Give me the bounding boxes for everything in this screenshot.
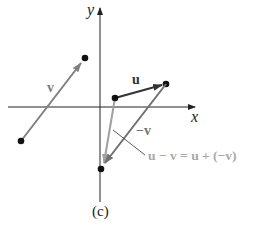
result-head-dot <box>98 166 105 173</box>
vector-v-label: v <box>47 81 54 95</box>
x-axis-label: x <box>191 109 198 125</box>
vector-diagram <box>0 0 258 232</box>
vector-u-tail-dot <box>112 95 119 102</box>
y-axis-label: y <box>87 2 94 18</box>
vector-v-head-dot <box>82 55 89 62</box>
vector-u-label: u <box>132 73 140 87</box>
vector-v <box>21 63 81 141</box>
vector-neg-v-label: −v <box>136 124 151 138</box>
figure-caption: (c) <box>92 204 109 219</box>
equation-label: u − v = u + (−v) <box>148 149 237 163</box>
vector-v-tail-dot <box>18 138 25 145</box>
